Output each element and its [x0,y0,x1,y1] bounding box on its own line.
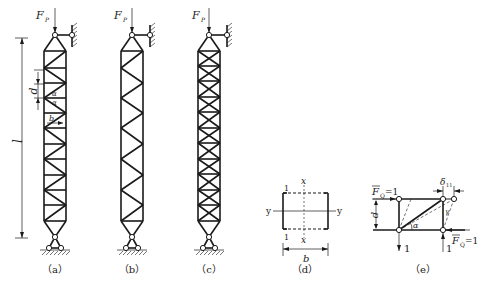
support-pin-icon [69,32,74,37]
base-pin-icon [200,245,205,250]
base-pin-icon [135,245,140,250]
support-pin-icon [224,32,229,37]
load-subscript: P [122,16,128,23]
support-pin-icon [147,32,152,37]
deflection-subscript: 11 [446,182,452,188]
panel-a: l d α α b F P （a） [11,8,77,275]
caption-c: （c） [196,264,222,275]
joint-pin-icon [396,196,401,201]
axis-y-left: y [265,206,272,216]
joint-pin-icon [440,227,445,232]
width-label: b [303,253,309,264]
force-value-bottom: =1 [465,236,478,246]
angle-label: α [413,221,419,230]
panel-b: F P （b） [113,8,155,275]
panel-e-shear-deformation: F Q =1 F Q =1 1 1 d α γ δ 11 [369,177,478,275]
reaction-right: 1 [446,243,452,254]
angle-label-upper: α [52,90,57,98]
caption-a: （a） [42,264,68,275]
load-label: F [191,9,200,22]
base-pin-icon [58,245,63,250]
top-pin-icon [52,32,57,37]
load-label: F [113,9,122,22]
length-label: l [11,139,25,143]
axis-y-right: y [336,206,343,216]
displaced-joint-pin-icon [451,196,456,201]
top-pin-icon [129,32,134,37]
axis-x-bottom: x [301,235,306,245]
caption-d: （d） [292,264,318,275]
panel-height-label: d [369,212,380,218]
bottom-pin-icon [52,234,57,239]
angle-label-lower: α [52,99,57,107]
caption-b: （b） [119,264,145,275]
axis-x-top: x [301,176,306,186]
bottom-pin-icon [129,234,134,239]
caption-e: （e） [410,264,436,275]
deflection-label: δ [440,177,445,187]
force-label-top: F [371,186,380,197]
base-pin-icon [123,245,128,250]
joint-pin-icon [440,196,445,201]
bottom-pin-icon [206,234,211,239]
section-label-bottom: 1 [284,233,289,242]
panel-d-cross-section: x x y y 1 1 b （d） [265,176,343,275]
reaction-left: 1 [404,243,410,254]
shear-angle-label: γ [445,208,450,216]
base-pin-icon [46,245,51,250]
lattice-column-diagram: l d α α b F P （a） [0,0,482,286]
joint-pin-icon [396,227,401,232]
force-value-top: =1 [385,187,398,197]
top-pin-icon [206,32,211,37]
panel-c: F P （c） [191,8,232,275]
load-subscript: P [200,16,206,23]
base-pin-icon [212,245,217,250]
load-label: F [35,9,44,22]
section-label-top: 1 [284,184,289,193]
load-subscript: P [44,16,50,23]
panel-height-label: d [27,87,40,94]
width-label: b [49,114,54,123]
